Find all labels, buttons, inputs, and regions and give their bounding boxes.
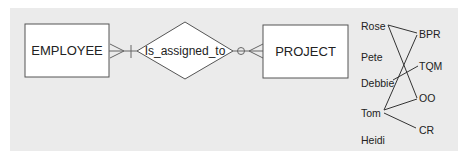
relationship-label: Is_assigned_to bbox=[145, 44, 226, 58]
entity-employee-label: EMPLOYEE bbox=[31, 43, 103, 58]
entity-employee: EMPLOYEE bbox=[25, 24, 109, 77]
project-instance: CR bbox=[419, 124, 435, 136]
employee-instance: Rose bbox=[361, 20, 386, 32]
assignment-rose-bpr bbox=[388, 25, 417, 33]
project-instance: OO bbox=[419, 92, 435, 104]
entity-project: PROJECT bbox=[263, 25, 348, 78]
connector-employee-relationship bbox=[109, 44, 137, 58]
connector-relationship-project bbox=[233, 44, 263, 58]
employee-instance: Tom bbox=[361, 107, 381, 119]
assignment-tom-oo bbox=[384, 99, 417, 110]
project-instance: BPR bbox=[419, 28, 441, 40]
employee-instance: Heidi bbox=[361, 134, 385, 146]
assignment-tom-bpr bbox=[384, 35, 417, 110]
assignment-tom-cr bbox=[384, 113, 416, 128]
employee-instance: Debbie bbox=[361, 77, 394, 89]
project-instances: BPR TQM OO CR bbox=[419, 28, 442, 136]
relationship-is-assigned-to: Is_assigned_to bbox=[137, 22, 233, 79]
entity-project-label: PROJECT bbox=[275, 44, 336, 59]
project-instance: TQM bbox=[419, 60, 442, 72]
employee-instances: Rose Pete Debbie Tom Heidi bbox=[361, 20, 394, 146]
er-diagram: EMPLOYEE Is_assigned_to PROJECT bbox=[0, 0, 465, 159]
employee-instance: Pete bbox=[361, 51, 383, 63]
